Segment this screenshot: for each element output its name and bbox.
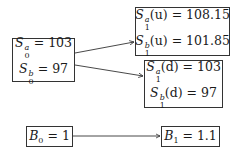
equals: = xyxy=(182,128,192,143)
node-s1-down: Sa1(d) = 103 Sb1(d) = 97 xyxy=(144,60,223,108)
subscript: 1 xyxy=(145,24,150,32)
state-arg: (u) xyxy=(150,7,168,22)
subscript: 1 xyxy=(160,102,165,110)
subscript: 0 xyxy=(29,78,34,86)
value: 108.15 xyxy=(186,7,230,22)
value: 1 xyxy=(62,128,70,143)
node-s0: Sa0 = 103 Sb0 = 97 xyxy=(12,38,75,82)
node-b0-line: B0 = 1 xyxy=(29,127,70,146)
symbol: S xyxy=(15,35,24,50)
state-arg: (d) xyxy=(161,59,179,74)
node-s1u-line-b: Sb1(u) = 101.85 xyxy=(135,32,230,58)
symbol: S xyxy=(135,7,144,22)
symbol: S xyxy=(146,59,155,74)
equals: = xyxy=(187,85,197,100)
equals: = xyxy=(47,128,57,143)
symbol: S xyxy=(135,33,144,48)
value: 103 xyxy=(48,35,72,50)
equals: = xyxy=(172,7,182,22)
equals: = xyxy=(34,35,44,50)
symbol: B xyxy=(29,128,38,143)
node-s1d-line-a: Sa1(d) = 103 xyxy=(146,58,221,84)
subscript: 1 xyxy=(145,50,150,58)
equals: = xyxy=(172,33,182,48)
node-s0-line-b: Sb0 = 97 xyxy=(19,60,68,86)
equals: = xyxy=(38,61,48,76)
node-b1: B1 = 1.1 xyxy=(161,126,220,147)
value: 103 xyxy=(197,59,221,74)
node-b0: B0 = 1 xyxy=(26,126,73,147)
value: 97 xyxy=(52,61,68,76)
value: 101.85 xyxy=(186,33,230,48)
subscript: 1 xyxy=(156,76,161,84)
subscript: 0 xyxy=(25,52,30,60)
node-s1d-line-b: Sb1(d) = 97 xyxy=(150,84,217,110)
edge-s0-to-s1d xyxy=(75,65,143,76)
node-b1-line: B1 = 1.1 xyxy=(164,127,217,146)
subscript: 1 xyxy=(173,136,178,145)
edge-s0-to-s1u xyxy=(75,42,134,53)
node-s0-line-a: Sa0 = 103 xyxy=(15,34,72,60)
node-s1u-line-a: Sa1(u) = 108.15 xyxy=(135,6,230,32)
symbol: B xyxy=(164,128,173,143)
value: 1.1 xyxy=(197,128,217,143)
symbol: S xyxy=(19,61,28,76)
equals: = xyxy=(183,59,193,74)
state-arg: (d) xyxy=(165,85,183,100)
subscript: 0 xyxy=(38,136,43,145)
value: 97 xyxy=(201,85,217,100)
symbol: S xyxy=(150,85,159,100)
node-s1-up: Sa1(u) = 108.15 Sb1(u) = 101.85 xyxy=(135,7,230,56)
state-arg: (u) xyxy=(150,33,168,48)
